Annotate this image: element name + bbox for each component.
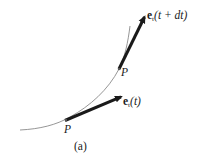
space-curve xyxy=(20,26,130,130)
vector-argument: (t) xyxy=(130,95,141,107)
diagram-canvas xyxy=(0,0,198,159)
figure-caption: (a) xyxy=(74,141,87,153)
tangent-vector-diagram: et(t + dt) et(t) P P (a) xyxy=(0,0,198,159)
vector-label-et-t-plus-dt: et(t + dt) xyxy=(147,10,187,23)
point-p-lower-marker xyxy=(65,119,67,121)
vector-label-et-t: et(t) xyxy=(123,96,141,109)
tangent-vector-et-t xyxy=(65,97,121,121)
point-label-p-lower: P xyxy=(64,124,71,136)
point-p-upper-marker xyxy=(118,68,120,70)
point-label-p-upper: P xyxy=(121,67,128,79)
vector-argument: (t + dt) xyxy=(154,9,187,21)
tangent-vector-et-t-plus-dt xyxy=(119,17,145,69)
